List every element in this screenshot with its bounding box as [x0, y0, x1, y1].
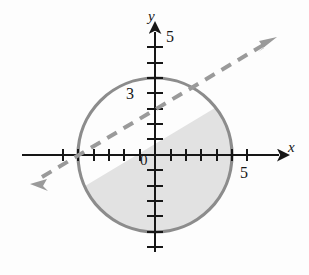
y-max-tick-label: 5: [166, 28, 174, 46]
y-axis-label: y: [148, 8, 155, 25]
figure-canvas: [0, 0, 309, 275]
dashed-line-arrow-start: [30, 179, 48, 191]
math-figure-circle-region: y x 0 3 5 5: [0, 0, 309, 275]
origin-label: 0: [140, 152, 148, 169]
x-max-tick-label: 5: [240, 164, 248, 182]
x-axis-label: x: [288, 139, 295, 156]
y-intercept-label: 3: [126, 85, 134, 103]
